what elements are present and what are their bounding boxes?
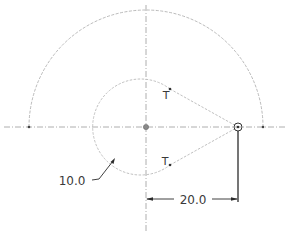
radius-dimension-label[interactable]: 10.0	[59, 174, 86, 188]
upper-tangent-label: T	[162, 89, 170, 102]
lower-tangent-label: T	[161, 155, 169, 168]
apex-point[interactable]	[237, 126, 240, 129]
lower-tangent-point[interactable]	[169, 164, 172, 167]
distance-arrow-right	[231, 197, 238, 200]
distance-dimension-label[interactable]: 20.0	[180, 193, 207, 207]
lower-tangent-line[interactable]	[170, 127, 238, 165]
distance-arrow-left	[146, 197, 153, 200]
arc-endpoint-right[interactable]	[262, 126, 265, 129]
center-point[interactable]	[143, 124, 148, 129]
sketch-canvas[interactable]: 20.0 10.0 T T	[0, 0, 289, 235]
upper-tangent-line[interactable]	[170, 89, 238, 127]
arc-endpoint-left[interactable]	[28, 126, 31, 129]
